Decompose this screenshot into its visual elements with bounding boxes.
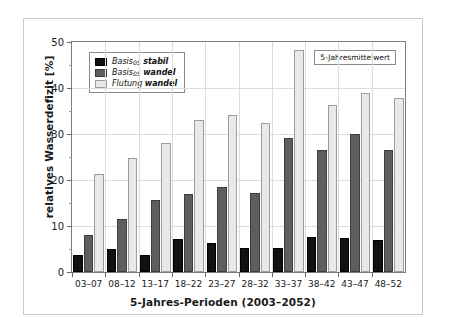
- bar: [250, 193, 260, 272]
- x-axis-tick-label: 13–17: [142, 279, 169, 289]
- x-axis-tick: [338, 272, 339, 277]
- gridline-vertical: [105, 42, 106, 272]
- chart-figure: relatives Wasserdefizit [%] 5-Jahres-Per…: [23, 18, 423, 315]
- x-axis-tick: [172, 272, 173, 277]
- bar: [217, 187, 227, 272]
- annotation-box: 5-Jahresmittelwert: [314, 50, 396, 65]
- x-axis-tick-label: 03–07: [75, 279, 102, 289]
- bar: [317, 150, 327, 272]
- bar: [173, 239, 183, 272]
- y-axis-tick-label: 0: [58, 267, 64, 278]
- gridline-vertical: [372, 42, 373, 272]
- bar: [240, 248, 250, 272]
- bar: [117, 219, 127, 272]
- x-axis-tick-label: 28–32: [241, 279, 268, 289]
- x-axis-tick: [205, 272, 206, 277]
- bar: [340, 238, 350, 272]
- legend-label-basis05-wandel: Basis05 wandel: [112, 68, 176, 77]
- legend-item-flutung-wandel: Flutung wandel: [95, 79, 177, 88]
- y-axis-minor-tick: [69, 157, 72, 158]
- bar: [373, 240, 383, 272]
- bar: [384, 150, 394, 272]
- bar: [194, 120, 204, 272]
- bar: [361, 93, 371, 272]
- bar: [94, 174, 104, 272]
- bar: [328, 105, 338, 272]
- gridline-vertical: [272, 42, 273, 272]
- bar: [273, 248, 283, 272]
- y-axis-minor-tick: [69, 203, 72, 204]
- legend-label-basis05-stabil: Basis05 stabil: [112, 57, 168, 66]
- x-axis-tick: [372, 272, 373, 277]
- bar: [151, 200, 161, 272]
- y-axis-tick: [67, 42, 72, 43]
- bar: [307, 237, 317, 272]
- bar: [394, 98, 404, 272]
- x-axis-tick: [72, 272, 73, 277]
- bar: [284, 138, 294, 272]
- legend-item-basis05-wandel: Basis05 wandel: [95, 68, 177, 77]
- x-axis-tick: [305, 272, 306, 277]
- x-axis-tick-label: 23–27: [208, 279, 235, 289]
- bar: [140, 255, 150, 272]
- y-axis-tick-label: 40: [51, 83, 64, 94]
- x-axis-tick: [239, 272, 240, 277]
- y-axis-tick-label: 10: [51, 221, 64, 232]
- y-axis-tick: [67, 134, 72, 135]
- bar: [350, 134, 360, 272]
- x-axis-tick-label: 33–37: [275, 279, 302, 289]
- bar: [84, 235, 94, 272]
- y-axis-tick-label: 30: [51, 129, 64, 140]
- bar: [73, 255, 83, 272]
- x-axis-tick-label: 18–22: [175, 279, 202, 289]
- bar: [128, 158, 138, 272]
- bar: [184, 194, 194, 272]
- x-axis-tick-label: 48–52: [375, 279, 402, 289]
- x-axis-tick: [105, 272, 106, 277]
- y-axis-minor-tick: [69, 249, 72, 250]
- gridline-vertical: [239, 42, 240, 272]
- x-axis-tick: [272, 272, 273, 277]
- y-axis-tick-label: 20: [51, 175, 64, 186]
- chart-legend: Basis05 stabil Basis05 wandel Flutung wa…: [89, 52, 185, 93]
- bar: [294, 50, 304, 272]
- bar: [228, 115, 238, 272]
- y-axis-tick: [67, 180, 72, 181]
- y-axis-tick: [67, 226, 72, 227]
- bar: [207, 243, 217, 272]
- gridline-vertical: [139, 42, 140, 272]
- plot-area: Basis05 stabil Basis05 wandel Flutung wa…: [71, 41, 406, 273]
- x-axis-tick-label: 43–47: [341, 279, 368, 289]
- y-axis-tick: [67, 88, 72, 89]
- x-axis-tick: [139, 272, 140, 277]
- y-axis-minor-tick: [69, 65, 72, 66]
- bar: [107, 249, 117, 272]
- x-axis-tick-label: 38–42: [308, 279, 335, 289]
- y-axis-tick-label: 50: [51, 37, 64, 48]
- x-axis-title: 5-Jahres-Perioden (2003–2052): [24, 296, 422, 308]
- y-axis-minor-tick: [69, 111, 72, 112]
- bar: [161, 143, 171, 272]
- gridline-vertical: [172, 42, 173, 272]
- legend-item-basis05-stabil: Basis05 stabil: [95, 57, 177, 66]
- legend-label-flutung-wandel: Flutung wandel: [112, 79, 177, 88]
- bar: [261, 123, 271, 272]
- gridline-vertical: [205, 42, 206, 272]
- x-axis-tick-label: 08–12: [108, 279, 135, 289]
